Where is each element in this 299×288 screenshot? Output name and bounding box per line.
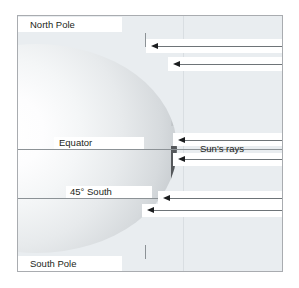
diagram-panel: Equator 45° South Sun's rays (17, 15, 283, 272)
ray-line-4 (185, 159, 283, 160)
ray-line-1 (158, 46, 283, 47)
north-pole-label: North Pole (30, 20, 75, 30)
ray-arrowhead-3 (178, 137, 185, 143)
south-pole-tick (145, 245, 146, 259)
latitude-45-south-label: 45° South (70, 187, 112, 197)
ray-line-2 (180, 64, 283, 65)
ray-arrowhead-6 (147, 207, 154, 213)
figure-canvas: Equator 45° South Sun's rays North Pole … (0, 0, 299, 288)
suns-rays-label: Sun's rays (200, 144, 244, 154)
ray-arrowhead-4 (178, 156, 185, 162)
vertical-guide-2 (282, 16, 283, 271)
ray-arrowhead-1 (151, 43, 158, 49)
equator-label: Equator (59, 138, 92, 148)
latitude-45-south-line (18, 198, 176, 199)
ray-line-3 (185, 140, 283, 141)
ray-arrowhead-5 (163, 195, 170, 201)
ray-arrowhead-2 (173, 61, 180, 67)
south-pole-label: South Pole (30, 259, 76, 269)
ray-line-6 (154, 210, 283, 211)
ray-line-5 (170, 198, 283, 199)
